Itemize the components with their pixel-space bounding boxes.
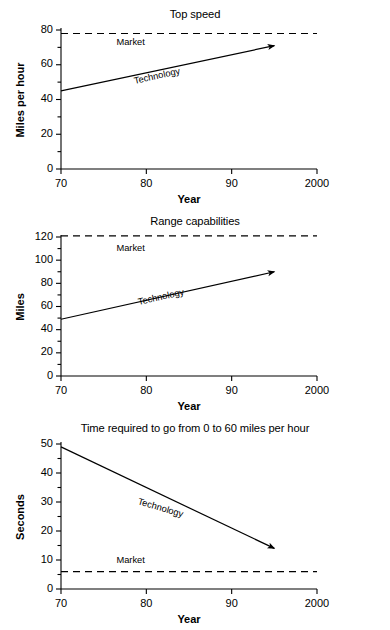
x-axis-title: Year <box>41 193 337 205</box>
x-tick-label: 70 <box>31 384 91 396</box>
y-tick-label: 100 <box>35 253 53 265</box>
y-tick-label: 10 <box>41 553 53 565</box>
x-tick-label: 80 <box>116 597 176 609</box>
x-axis-title: Year <box>41 400 337 412</box>
plot-area <box>0 0 390 207</box>
y-tick-label: 20 <box>41 127 53 139</box>
x-tick-label: 90 <box>202 177 262 189</box>
y-tick-label: 0 <box>47 162 53 174</box>
y-tick-label: 60 <box>41 299 53 311</box>
y-axis-title: Seconds <box>14 494 26 540</box>
plot-area <box>0 207 390 414</box>
market-annotation: Market <box>116 555 144 565</box>
y-tick-label: 40 <box>41 322 53 334</box>
chart-panel-acceleration-time: Time required to go from 0 to 60 miles p… <box>0 414 390 630</box>
y-tick-label: 50 <box>41 437 53 449</box>
y-tick-label: 30 <box>41 495 53 507</box>
series-line-technology <box>61 447 274 549</box>
x-tick-label: 70 <box>31 597 91 609</box>
x-tick-label: 2000 <box>287 384 347 396</box>
y-tick-label: 0 <box>47 582 53 594</box>
y-tick-label: 40 <box>41 466 53 478</box>
x-axis-title: Year <box>41 613 337 625</box>
x-tick-label: 70 <box>31 177 91 189</box>
y-tick-label: 40 <box>41 92 53 104</box>
y-tick-label: 80 <box>41 23 53 35</box>
chart-panel-range-capabilities: Range capabilities0204060801001207080902… <box>0 207 390 414</box>
y-tick-label: 120 <box>35 230 53 242</box>
y-tick-label: 0 <box>47 369 53 381</box>
x-tick-label: 2000 <box>287 597 347 609</box>
y-axis-title: Miles per hour <box>14 62 26 137</box>
x-tick-label: 90 <box>202 384 262 396</box>
y-tick-label: 60 <box>41 57 53 69</box>
x-tick-label: 80 <box>116 177 176 189</box>
y-axis-title: Miles <box>14 293 26 321</box>
x-tick-label: 2000 <box>287 177 347 189</box>
x-tick-label: 80 <box>116 384 176 396</box>
market-annotation: Market <box>116 243 144 253</box>
y-tick-label: 80 <box>41 276 53 288</box>
x-tick-label: 90 <box>202 597 262 609</box>
chart-panel-top-speed: Top speed0204060807080902000MarketTechno… <box>0 0 390 207</box>
market-annotation: Market <box>116 37 144 47</box>
y-tick-label: 20 <box>41 345 53 357</box>
y-tick-label: 20 <box>41 524 53 536</box>
